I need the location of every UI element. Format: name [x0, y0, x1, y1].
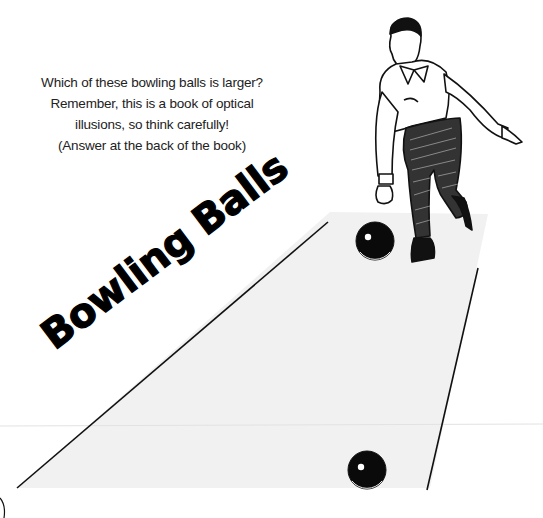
- prompt-line: Remember, this is a book of optical: [18, 93, 286, 114]
- prompt-line: (Answer at the back of the book): [18, 135, 286, 156]
- illusion-question: Which of these bowling balls is larger? …: [18, 72, 286, 156]
- page-corner-curve: [0, 498, 5, 518]
- prompt-line: Which of these bowling balls is larger?: [18, 72, 286, 93]
- prompt-line: illusions, so think carefully!: [18, 114, 286, 135]
- upper-bowling-ball: [356, 222, 394, 260]
- lower-bowling-ball: [348, 451, 386, 489]
